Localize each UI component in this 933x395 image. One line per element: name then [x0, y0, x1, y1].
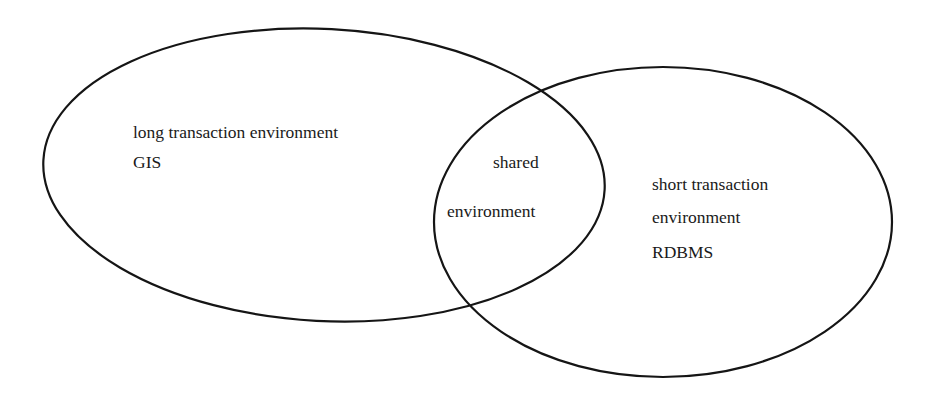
- shared-label-line2: environment: [447, 201, 536, 221]
- short-set-label-line3: RDBMS: [652, 242, 713, 262]
- venn-diagram: long transaction environment GIS shared …: [0, 0, 933, 395]
- shared-label-line1: shared: [493, 152, 539, 172]
- long-set-label-line2: GIS: [133, 152, 161, 172]
- long-set-label-line1: long transaction environment: [133, 122, 338, 142]
- long-transaction-ellipse: [36, 14, 613, 335]
- short-set-label-line2: environment: [652, 207, 741, 227]
- short-set-label-line1: short transaction: [652, 174, 768, 194]
